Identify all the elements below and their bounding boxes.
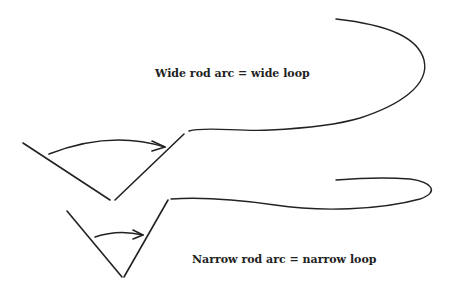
- narrow-loop: [171, 178, 431, 209]
- diagram-canvas: Wide rod arc = wide loop Narrow rod arc …: [0, 0, 452, 293]
- narrow-arc-left-stroke: [67, 211, 122, 277]
- narrow-arc-arrow: [95, 232, 143, 237]
- narrow-loop-caption: Narrow rod arc = narrow loop: [192, 253, 376, 266]
- wide-arc-arrowhead-icon: [152, 141, 165, 151]
- narrow-arc-right-stroke: [124, 200, 168, 277]
- wide-rod-arc: [23, 134, 184, 200]
- wide-arc-left-stroke: [23, 143, 110, 200]
- narrow-rod-arc: [67, 200, 168, 277]
- wide-loop-caption: Wide rod arc = wide loop: [155, 67, 310, 80]
- wide-arc-right-stroke: [115, 134, 184, 200]
- diagram-svg: [0, 0, 452, 293]
- wide-arc-arrow: [49, 140, 165, 154]
